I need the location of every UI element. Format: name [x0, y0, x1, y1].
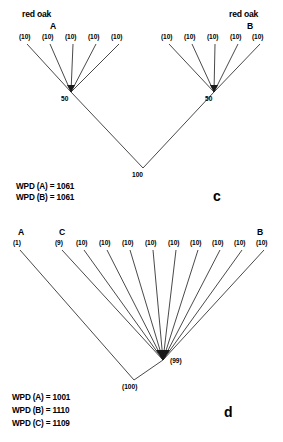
leaf-value-5-panel-d: (10) — [145, 240, 156, 247]
wpd-c-panel-d: WPD (C) = 1109 — [12, 420, 70, 428]
taxon-a-panel-d: A — [18, 228, 24, 237]
panel-letter-panel-c: c — [213, 189, 221, 203]
branch-leaf-3-panel-c — [71, 44, 96, 92]
leaf-value-0-panel-d: (1) — [13, 240, 21, 247]
branch-leaf-1-panel-c — [50, 44, 71, 92]
taxon-c-panel-d: C — [59, 228, 65, 237]
leaf-value-7-panel-c: (10) — [207, 34, 218, 41]
panel-letter-panel-d: d — [224, 405, 233, 419]
leaf-value-3-panel-c: (10) — [88, 34, 99, 41]
node-left-label-panel-c: 50 — [61, 96, 68, 103]
species-label-right-panel-c: red oak — [229, 10, 258, 19]
branch-leaf-6-panel-c — [192, 44, 214, 92]
leaf-value-5-panel-c: (10) — [161, 34, 172, 41]
leaf-value-10-panel-d: (10) — [256, 240, 267, 247]
node-root-label-panel-d: (100) — [122, 384, 137, 391]
node-right-label-panel-c: 50 — [205, 96, 212, 103]
wpd-a-panel-c: WPD (A) = 1061 — [16, 183, 74, 191]
leaf-value-0-panel-c: (10) — [19, 34, 30, 41]
wpd-b-panel-d: WPD (B) = 1110 — [12, 407, 69, 415]
branch-leaf-7-panel-d — [163, 250, 198, 360]
species-label-left-panel-c: red oak — [22, 10, 51, 19]
branch-leaf-8-panel-d — [163, 250, 220, 360]
leaf-value-8-panel-d: (10) — [212, 240, 223, 247]
leaf-value-1-panel-d: (9) — [55, 240, 63, 247]
leaf-value-9-panel-c: (10) — [252, 34, 263, 41]
leaf-value-2-panel-c: (10) — [65, 34, 76, 41]
branch-leaf-2-panel-d — [84, 250, 163, 360]
leaf-value-2-panel-d: (10) — [76, 240, 87, 247]
wpd-b-panel-c: WPD (B) = 1061 — [16, 194, 74, 202]
branch-leaf-7-panel-c — [214, 44, 215, 92]
branch-leaf-8-panel-c — [214, 44, 238, 92]
branch-leaf-5-panel-c — [169, 44, 214, 92]
taxon-b-panel-c: B — [247, 22, 253, 31]
branch-leaf-10-panel-d — [163, 250, 264, 360]
leaf-value-3-panel-d: (10) — [99, 240, 110, 247]
taxon-b-panel-d: B — [257, 228, 263, 237]
tree-branch-lines — [0, 0, 283, 442]
node-root-label-panel-c: 100 — [132, 172, 143, 179]
node-internal-label-panel-d: (99) — [170, 358, 182, 365]
leaf-value-8-panel-c: (10) — [230, 34, 241, 41]
leaf-value-7-panel-d: (10) — [190, 240, 201, 247]
wpd-a-panel-d: WPD (A) = 1001 — [12, 394, 70, 402]
branch-leaf-4-panel-c — [71, 44, 119, 92]
leaf-value-6-panel-c: (10) — [184, 34, 195, 41]
branch-leaf-1-panel-d — [62, 250, 163, 360]
branch-leaf-0-panel-c — [27, 44, 71, 92]
branch-internal-right-panel-c — [143, 92, 214, 168]
branch-leaf-9-panel-c — [214, 44, 260, 92]
phylogenetic-tree-figure: red oakred oakAB(10)(10)(10)(10)(10)(10)… — [0, 0, 283, 442]
branch-leaf-9-panel-d — [163, 250, 242, 360]
leaf-value-1-panel-c: (10) — [42, 34, 53, 41]
leaf-value-9-panel-d: (10) — [234, 240, 245, 247]
leaf-value-6-panel-d: (10) — [168, 240, 179, 247]
branch-internal-panel-d — [134, 360, 163, 380]
taxon-a-panel-c: A — [50, 22, 56, 31]
branch-internal-left-panel-c — [71, 92, 143, 168]
leaf-value-4-panel-c: (10) — [111, 34, 122, 41]
branch-leaf-6-panel-d — [163, 250, 176, 360]
branch-leaf-2-panel-c — [71, 44, 73, 92]
leaf-value-4-panel-d: (10) — [122, 240, 133, 247]
